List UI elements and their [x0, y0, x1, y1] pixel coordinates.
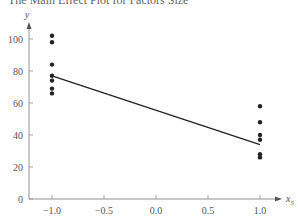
data-point	[50, 40, 54, 44]
data-point	[258, 104, 262, 108]
data-point	[50, 86, 54, 90]
data-point	[258, 155, 262, 159]
data-point	[50, 78, 54, 82]
y-tick-label: 20	[13, 162, 23, 173]
y-tick-label: 100	[8, 34, 23, 45]
data-point	[50, 74, 54, 78]
x-axis-label: x5	[285, 193, 294, 207]
y-axis-label: y	[24, 9, 30, 20]
y-tick-label: 60	[13, 98, 23, 109]
data-point	[50, 62, 54, 66]
x-tick-label: 1.0	[254, 205, 267, 216]
data-point	[258, 133, 262, 137]
main-effect-line	[52, 76, 260, 145]
y-tick-label: 80	[13, 66, 23, 77]
main-effect-plot: yx5020406080100−1.0−0.50.00.51.0	[0, 0, 298, 221]
x-axis-arrow-icon	[275, 197, 282, 202]
x-tick-label: 0.0	[150, 205, 163, 216]
data-point	[258, 138, 262, 142]
data-point	[258, 120, 262, 124]
x-tick-label: 0.5	[202, 205, 215, 216]
x-tick-label: −0.5	[95, 205, 113, 216]
y-axis-arrow-icon	[27, 22, 32, 29]
y-tick-label: 0	[18, 194, 23, 205]
y-tick-label: 40	[13, 130, 23, 141]
x-tick-label: −1.0	[43, 205, 61, 216]
data-point	[50, 91, 54, 95]
data-point	[50, 34, 54, 38]
